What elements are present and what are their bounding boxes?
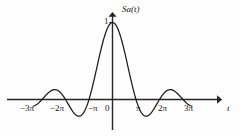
x-tick-label: −2π — [50, 103, 64, 113]
x-tick-label: −π — [88, 103, 98, 113]
sinc-function-figure: Sa(t) 1 t −3π−2π−π0π2π3π — [0, 0, 240, 137]
plot-canvas — [0, 0, 240, 137]
x-tick-label: π — [136, 103, 141, 113]
y-axis-value-one: 1 — [104, 16, 109, 26]
y-axis-label: Sa(t) — [122, 4, 140, 14]
x-tick-label: 0 — [105, 103, 110, 113]
x-tick-label: 2π — [158, 103, 167, 113]
x-tick-label: −3π — [20, 103, 34, 113]
x-axis-label: t — [227, 103, 230, 113]
x-tick-label: 3π — [184, 103, 193, 113]
